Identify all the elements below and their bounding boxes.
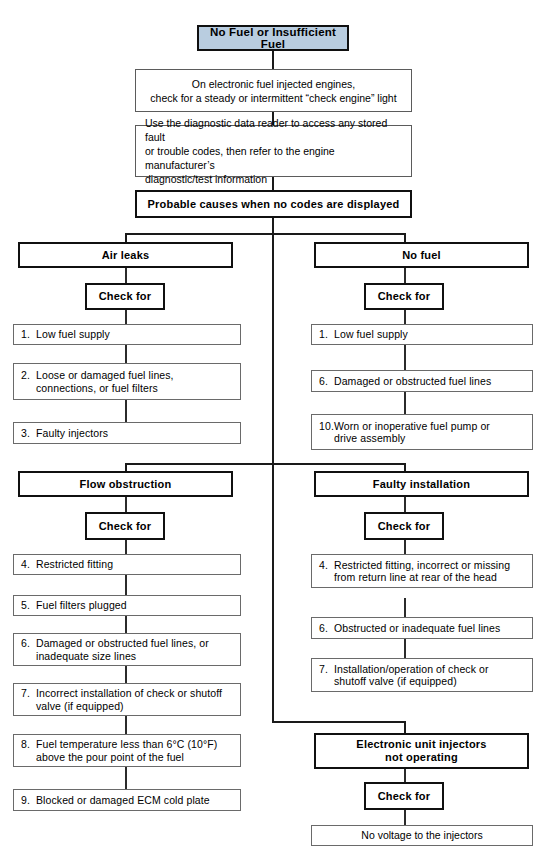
list-item-text: Loose or damaged fuel lines, connections… — [36, 369, 232, 394]
connector-no-fuel-to-check — [404, 268, 406, 283]
check-for-no-fuel-text: Check for — [366, 290, 442, 303]
list-item-text: Damaged or obstructed fuel lines, or ina… — [36, 637, 232, 662]
step-3-text: Probable causes when no codes are displa… — [137, 198, 410, 211]
connector-flow-item4-to-item5 — [125, 716, 127, 734]
connector-title-to-step1 — [272, 51, 274, 69]
diagram-title-text: No Fuel or Insufficient Fuel — [199, 26, 347, 50]
step-3-box: Probable causes when no codes are displa… — [135, 190, 412, 218]
connector-nofuel-check-to-item1 — [404, 310, 406, 324]
list-item-number: 4. — [319, 559, 334, 572]
connector-flow-item2-to-item3 — [125, 616, 127, 633]
branch-heading-faulty-installation: Faulty installation — [314, 471, 529, 497]
list-item-number: 7. — [21, 687, 36, 700]
list-item: 1.Low fuel supply — [311, 324, 533, 345]
list-item-number: 10. — [319, 420, 334, 433]
list-item-number: 5. — [21, 599, 36, 612]
list-item: 7.Installation/operation of check or shu… — [311, 658, 533, 692]
list-item-text: No voltage to the injectors — [312, 829, 532, 842]
list-item-text: Faulty injectors — [36, 427, 232, 440]
connector-branch-bar-2 — [125, 463, 406, 465]
connector-air-item2-to-item3 — [125, 400, 127, 422]
connector-air-item1-to-item2 — [125, 345, 127, 363]
list-item-text: Fuel temperature less than 6°C (10°F) ab… — [36, 738, 232, 763]
list-item-number: 8. — [21, 738, 36, 751]
list-item-number: 6. — [319, 375, 334, 388]
step-2-box: Use the diagnostic data reader to access… — [135, 125, 412, 177]
list-item: 1.Low fuel supply — [13, 324, 241, 345]
connector-main-trunk — [272, 218, 274, 723]
list-item: 6.Damaged or obstructed fuel lines — [311, 370, 533, 392]
check-for-no-fuel: Check for — [364, 283, 444, 310]
branch-heading-no-fuel: No fuel — [314, 242, 529, 268]
branch-heading-electronic-unit-injectors-text: Electronic unit injectors not operating — [316, 738, 527, 764]
connector-eui-check-to-item1 — [404, 810, 406, 825]
check-for-faulty-installation: Check for — [364, 512, 444, 540]
check-for-electronic-unit-injectors: Check for — [364, 782, 444, 810]
list-item-text: Incorrect installation of check or shuto… — [36, 687, 232, 712]
list-item: 2.Loose or damaged fuel lines, connectio… — [13, 363, 241, 400]
list-item: 10.Worn or inoperative fuel pump or driv… — [311, 414, 533, 450]
list-item: 9.Blocked or damaged ECM cold plate — [13, 789, 241, 811]
connector-branch-bar-1 — [125, 233, 406, 235]
check-for-faulty-installation-text: Check for — [366, 520, 442, 533]
list-item: 8.Fuel temperature less than 6°C (10°F) … — [13, 734, 241, 767]
connector-flow-check-to-item1 — [125, 540, 127, 554]
list-item: 3.Faulty injectors — [13, 422, 241, 444]
connector-faulty-to-check — [404, 497, 406, 512]
list-item-number: 1. — [319, 328, 334, 341]
list-item-number: 1. — [21, 328, 36, 341]
list-item: 7.Incorrect installation of check or shu… — [13, 683, 241, 716]
list-item: No voltage to the injectors — [311, 825, 533, 846]
branch-heading-electronic-unit-injectors: Electronic unit injectors not operating — [314, 733, 529, 769]
list-item-number: 2. — [21, 369, 36, 382]
connector-flow-item3-to-item4 — [125, 666, 127, 683]
list-item-text: Low fuel supply — [36, 328, 232, 341]
branch-heading-no-fuel-text: No fuel — [316, 249, 527, 262]
connector-eui-to-check — [404, 769, 406, 782]
list-item-text: Fuel filters plugged — [36, 599, 232, 612]
list-item-text: Obstructed or inadequate fuel lines — [334, 622, 524, 635]
check-for-air-leaks-text: Check for — [87, 290, 163, 303]
step-1-box: On electronic fuel injected engines, che… — [135, 69, 412, 112]
branch-heading-air-leaks-text: Air leaks — [20, 249, 231, 262]
list-item-text: Restricted fitting — [36, 558, 232, 571]
step-2-text: Use the diagnostic data reader to access… — [145, 116, 402, 186]
list-item: 6.Obstructed or inadequate fuel lines — [311, 617, 533, 639]
list-item: 5.Fuel filters plugged — [13, 595, 241, 616]
flowchart-diagram: No Fuel or Insufficient Fuel On electron… — [0, 0, 545, 864]
list-item-number: 6. — [319, 622, 334, 635]
branch-heading-faulty-installation-text: Faulty installation — [316, 478, 527, 491]
connector-faulty-check-to-item1 — [404, 540, 406, 554]
branch-heading-flow-obstruction-text: Flow obstruction — [20, 478, 231, 491]
diagram-title-box: No Fuel or Insufficient Fuel — [197, 25, 349, 51]
connector-trunk-elbow — [272, 721, 406, 723]
check-for-flow-obstruction: Check for — [85, 512, 165, 540]
list-item-text: Installation/operation of check or shuto… — [334, 663, 524, 688]
connector-flow-to-check — [125, 497, 127, 512]
list-item: 4.Restricted fitting, incorrect or missi… — [311, 554, 533, 588]
connector-air-leaks-to-check — [125, 268, 127, 283]
connector-faulty-item1-to-item2 — [404, 598, 406, 617]
check-for-flow-obstruction-text: Check for — [87, 520, 163, 533]
connector-faulty-item2-to-item3 — [404, 639, 406, 658]
connector-air-check-to-item1 — [125, 310, 127, 324]
check-for-electronic-unit-injectors-text: Check for — [366, 790, 442, 803]
list-item-text: Worn or inoperative fuel pump or drive a… — [334, 420, 524, 445]
list-item-text: Blocked or damaged ECM cold plate — [36, 794, 232, 807]
connector-elbow-down — [404, 721, 406, 733]
connector-nofuel-item1-to-item2 — [404, 345, 406, 370]
list-item-number: 7. — [319, 663, 334, 676]
list-item-number: 6. — [21, 637, 36, 650]
connector-flow-item1-to-item2 — [125, 575, 127, 595]
list-item-number: 4. — [21, 558, 36, 571]
list-item-text: Damaged or obstructed fuel lines — [334, 375, 524, 388]
list-item-number: 9. — [21, 794, 36, 807]
list-item-text: Restricted fitting, incorrect or missing… — [334, 559, 524, 584]
connector-nofuel-item2-to-item3 — [404, 392, 406, 414]
list-item: 6.Damaged or obstructed fuel lines, or i… — [13, 633, 241, 666]
connector-flow-item5-to-item6 — [125, 767, 127, 789]
check-for-air-leaks: Check for — [85, 283, 165, 310]
list-item-number: 3. — [21, 427, 36, 440]
branch-heading-flow-obstruction: Flow obstruction — [18, 471, 233, 497]
step-1-text: On electronic fuel injected engines, che… — [145, 77, 402, 105]
